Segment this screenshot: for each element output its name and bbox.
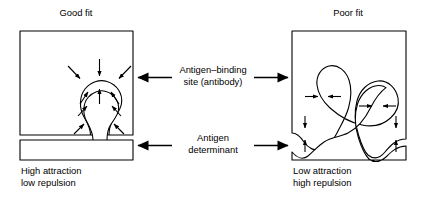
panel-poor-fit: Poor fit Low attraction high repulsion bbox=[292, 7, 406, 188]
callout-antigen-binding-site: Antigen–binding site (antibody) bbox=[138, 64, 288, 87]
label-antigen-binding-site-line1: Antigen–binding bbox=[179, 64, 246, 75]
left-antibody-block bbox=[20, 31, 133, 135]
caption-good-fit-line1: High attraction bbox=[21, 165, 81, 176]
caption-good-fit-line2: low repulsion bbox=[21, 177, 76, 188]
antibody-antigen-fit-diagram: Good fit High attraction low repulsion bbox=[0, 0, 428, 198]
callout-antigen-determinant: Antigen determinant bbox=[138, 132, 288, 155]
caption-poor-fit-line1: Low attraction bbox=[293, 165, 351, 176]
panel-good-fit: Good fit High attraction low repulsion bbox=[20, 7, 133, 188]
diagram-canvas: Good fit High attraction low repulsion bbox=[0, 0, 428, 198]
panel-title-good-fit: Good fit bbox=[60, 7, 93, 18]
caption-poor-fit-line2: high repulsion bbox=[293, 177, 351, 188]
label-antigen-determinant-line1: Antigen bbox=[197, 132, 229, 143]
panel-title-poor-fit: Poor fit bbox=[333, 7, 363, 18]
label-antigen-determinant-line2: determinant bbox=[188, 144, 238, 155]
label-antigen-binding-site-line2: site (antibody) bbox=[184, 76, 243, 87]
